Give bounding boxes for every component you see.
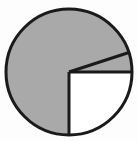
pie-chart-svg xyxy=(0,0,138,141)
pie-chart-figure: Pie chart with one large gray slice and … xyxy=(0,0,138,141)
